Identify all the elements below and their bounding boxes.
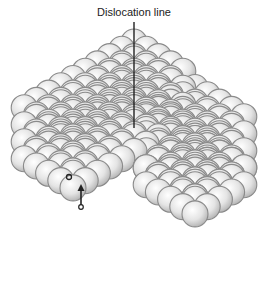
- atom-sphere: [182, 201, 208, 227]
- crystal-lattice-diagram: [0, 0, 268, 290]
